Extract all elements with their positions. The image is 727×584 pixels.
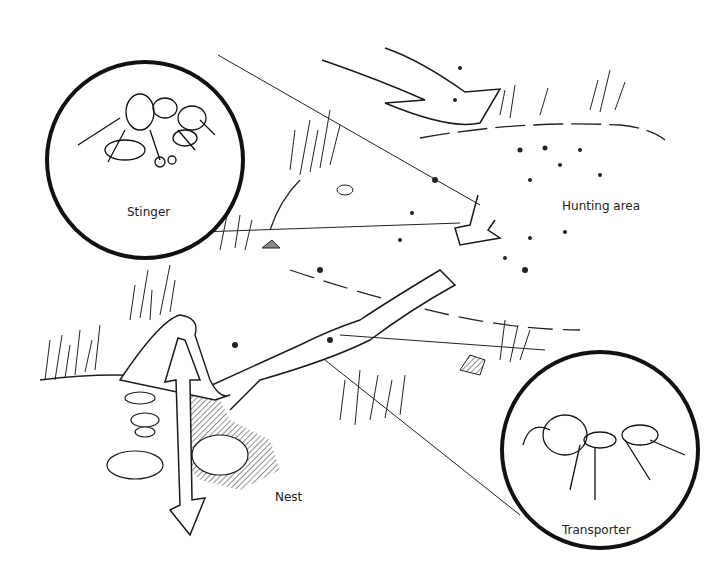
branch-trail <box>190 270 455 410</box>
stinger-inset <box>47 62 243 258</box>
transporter-inset <box>502 352 698 548</box>
arrow-return <box>455 195 500 245</box>
arrow-to-hunting-area <box>322 48 500 124</box>
hunting-area-label: Hunting area <box>562 199 640 213</box>
nest-label: Nest <box>275 490 302 504</box>
stinger-label: Stinger <box>127 205 170 219</box>
illustration-canvas <box>0 0 727 584</box>
transporter-label: Transporter <box>562 523 631 537</box>
